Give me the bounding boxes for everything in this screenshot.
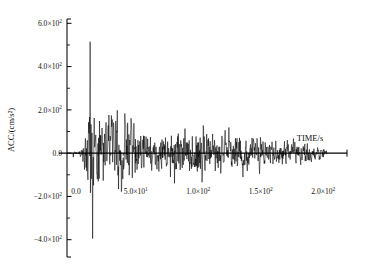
acceleration-time-history-figure: −4.0×102−2.0×1020.02.0×1024.0×1026.0×102… — [0, 0, 387, 272]
x-tick-label: 1.0×102 — [186, 186, 210, 196]
y-tick-label: 6.0×102 — [38, 18, 62, 28]
y-tick-label: −4.0×102 — [34, 234, 63, 244]
x-axis-title: TIME/s — [297, 133, 323, 143]
y-tick-label: 4.0×102 — [38, 61, 62, 71]
y-tick-label: −2.0×102 — [34, 191, 63, 201]
chart-canvas: −4.0×102−2.0×1020.02.0×1024.0×1026.0×102… — [0, 0, 387, 272]
x-tick-label: 1.5×102 — [249, 186, 273, 196]
x-tick-label: 2.0×102 — [311, 186, 335, 196]
y-tick-label: 2.0×102 — [38, 104, 62, 114]
acceleration-trace — [73, 42, 327, 239]
x-tick-label: 5.0×101 — [124, 186, 148, 196]
y-axis-title: ACC/(cm/s²) — [6, 108, 16, 152]
y-axis: −4.0×102−2.0×1020.02.0×1024.0×1026.0×102 — [34, 18, 72, 257]
x-tick-label: 0.0 — [71, 187, 81, 196]
waveform-series — [73, 42, 327, 239]
